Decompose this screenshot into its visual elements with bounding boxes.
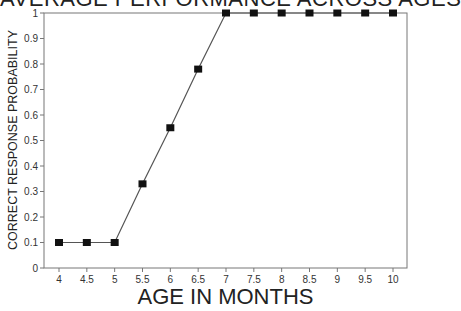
y-tick-label: 0	[32, 263, 38, 274]
x-axis-label: AGE IN MONTHS	[44, 284, 407, 310]
y-tick-label: 0.3	[24, 186, 38, 197]
data-point-marker	[389, 10, 397, 17]
data-point-marker	[83, 239, 91, 246]
series-line	[59, 13, 393, 243]
y-tick-label: 0.2	[24, 212, 38, 223]
data-point-marker	[333, 10, 341, 17]
chart-axes	[44, 13, 407, 268]
x-axis-ticks: 44.555.566.577.588.599.510	[56, 268, 399, 285]
data-point-marker	[250, 10, 258, 17]
y-axis-label: CORRECT RESPONSE PROBABILITY	[6, 30, 20, 250]
data-point-marker	[139, 180, 147, 187]
y-tick-label: 0.9	[24, 33, 38, 44]
y-tick-label: 0.1	[24, 237, 38, 248]
y-tick-label: 0.8	[24, 59, 38, 70]
data-point-marker	[194, 66, 202, 73]
plot-frame	[44, 13, 407, 268]
y-tick-label: 1	[32, 8, 38, 19]
y-tick-label: 0.5	[24, 135, 38, 146]
data-series	[55, 10, 397, 247]
data-point-marker	[278, 10, 286, 17]
data-point-marker	[166, 124, 174, 131]
y-axis-ticks: 00.10.20.30.40.50.60.70.80.91	[24, 8, 44, 274]
data-point-marker	[306, 10, 314, 17]
data-point-marker	[361, 10, 369, 17]
y-tick-label: 0.6	[24, 110, 38, 121]
data-point-marker	[55, 239, 63, 246]
data-point-marker	[222, 10, 230, 17]
y-tick-label: 0.7	[24, 84, 38, 95]
data-point-marker	[111, 239, 119, 246]
y-tick-label: 0.4	[24, 161, 38, 172]
